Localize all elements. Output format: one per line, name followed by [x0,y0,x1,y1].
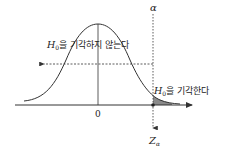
critical-point [151,103,155,107]
do-not-reject-label: H0을 기각하지 않는다 [46,39,130,51]
hypothesis-test-diagram: α 0 Zα H0을 기각하지 않는다 H0을 기각한다 [0,0,236,154]
alpha-label: α [150,2,157,13]
reject-label: H0을 기각한다 [153,85,210,97]
zero-tick-label: 0 [95,109,101,119]
critical-value-label: Zα [148,135,160,147]
